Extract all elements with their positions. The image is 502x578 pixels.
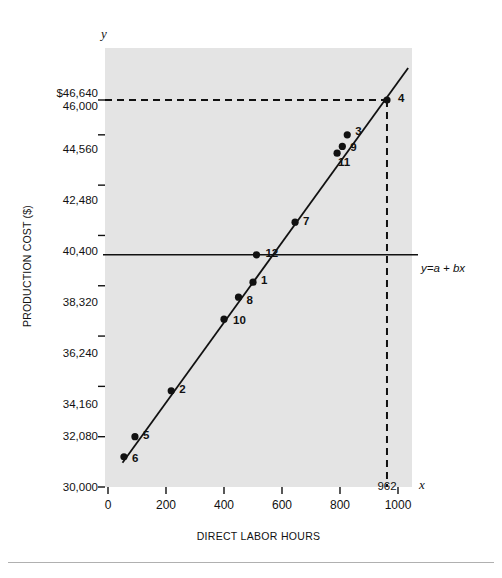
y-tick-label: 32,080 bbox=[28, 430, 98, 442]
x-tick-label: 1000 bbox=[368, 498, 428, 512]
x-tick-label: 200 bbox=[136, 498, 196, 512]
y-axis-marker: y bbox=[101, 26, 107, 42]
x-axis-marker: x bbox=[419, 477, 425, 493]
data-point-label-5: 5 bbox=[143, 429, 149, 441]
scatter-plot-figure: $46,640 46,000 44,560 42,480 40,400 38,3… bbox=[0, 0, 502, 578]
y-tick-label: 38,320 bbox=[28, 296, 98, 308]
data-point-label-4: 4 bbox=[398, 92, 404, 104]
data-point-label-11: 11 bbox=[338, 156, 350, 168]
data-point-label-8: 8 bbox=[247, 294, 253, 306]
data-point-label-7: 7 bbox=[303, 215, 309, 227]
x-tick-label: 800 bbox=[310, 498, 370, 512]
x-tick-label: 0 bbox=[78, 498, 138, 512]
y-tick-label: 30,000 bbox=[28, 481, 98, 493]
x-tick-label: 400 bbox=[194, 498, 254, 512]
data-point-label-9: 9 bbox=[350, 141, 356, 153]
y-tick-label: 34,160 bbox=[28, 398, 98, 410]
y-axis-title: PRODUCTION COST ($) bbox=[21, 176, 33, 356]
regression-equation-label: y=a + bx bbox=[421, 262, 465, 274]
y-tick-label: 42,480 bbox=[28, 194, 98, 206]
y-tick-label: 40,400 bbox=[28, 245, 98, 257]
footer-divider bbox=[8, 562, 494, 563]
y-tick-label: 46,000 bbox=[28, 100, 98, 112]
plot-area bbox=[105, 48, 412, 487]
y-tick-label: 36,240 bbox=[28, 347, 98, 359]
y-tick-label: 44,560 bbox=[28, 143, 98, 155]
data-point-label-2: 2 bbox=[179, 383, 185, 395]
x-intercept-note: 962 bbox=[357, 480, 417, 492]
data-point-label-12: 12 bbox=[265, 247, 278, 259]
x-tick-label: 600 bbox=[252, 498, 312, 512]
x-axis-title: DIRECT LABOR HOURS bbox=[105, 530, 412, 542]
data-point-label-6: 6 bbox=[132, 452, 138, 464]
data-point-label-1: 1 bbox=[261, 274, 267, 286]
data-point-label-10: 10 bbox=[233, 314, 246, 326]
y-tick-label: $46,640 bbox=[28, 87, 98, 99]
data-point-label-3: 3 bbox=[355, 125, 361, 137]
